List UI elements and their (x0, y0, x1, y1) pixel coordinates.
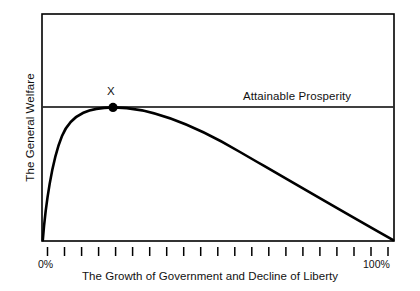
peak-point-marker (108, 103, 117, 112)
x-axis-tick-label-right: 100% (363, 258, 390, 270)
chart-plot-area (0, 0, 420, 291)
chart-container: The General Welfare Attainable Prosperit… (0, 0, 420, 291)
y-axis-title: The General Welfare (22, 14, 38, 241)
x-axis-tick-label-left: 0% (38, 258, 53, 270)
x-axis-ticks (48, 247, 389, 256)
attainable-prosperity-label: Attainable Prosperity (243, 90, 351, 102)
plot-frame (42, 14, 394, 241)
peak-point-label: X (107, 85, 115, 97)
x-axis-title: The Growth of Government and Decline of … (0, 270, 420, 282)
